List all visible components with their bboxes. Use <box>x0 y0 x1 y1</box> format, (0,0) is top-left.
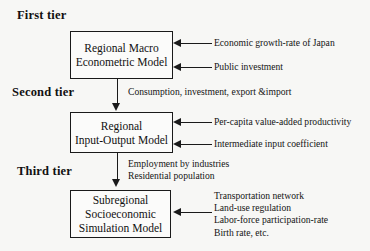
input-label-labor-force-participation-rate: Labor-force participation-rate <box>214 214 328 226</box>
arrow-left-icon <box>173 208 181 216</box>
flow-label-employment-residential-population: Employment by industries Residential pop… <box>128 158 229 182</box>
flow-label-consumption-investment-export-import: Consumption, investment, export &import <box>128 86 291 98</box>
box-line: Socioeconomic <box>85 207 156 221</box>
box-line: Simulation Model <box>79 221 162 235</box>
input-label-birth-rate-etc: Birth rate, etc. <box>214 227 328 239</box>
input-connector-line <box>181 122 212 123</box>
flow-label-line: Consumption, investment, export &import <box>128 86 291 98</box>
arrow-left-icon <box>173 118 181 126</box>
flow-label-line: Residential population <box>128 170 229 182</box>
input-label-public-investment: Public investment <box>214 61 283 73</box>
box-line: Subregional <box>93 193 149 207</box>
tier-label-second: Second tier <box>12 85 74 100</box>
model-box-subregional-socioeconomic-simulation: Subregional Socioeconomic Simulation Mod… <box>70 190 171 238</box>
input-label-economic-growth-rate: Economic growth-rate of Japan <box>214 37 335 49</box>
input-label-transportation-network: Transportation network <box>214 190 328 202</box>
input-connector-line <box>181 43 212 44</box>
tier-label-third: Third tier <box>17 164 72 179</box>
box-line: Regional <box>101 119 143 133</box>
input-label-intermediate-input-coefficient: Intermediate input coefficient <box>214 138 328 150</box>
input-connector-line <box>181 67 212 68</box>
input-label-per-capita-value-added-productivity: Per-capita value-added productivity <box>214 116 351 128</box>
arrow-left-icon <box>173 39 181 47</box>
flow-connector-line <box>117 153 118 181</box>
flow-connector-line <box>117 79 118 105</box>
box-line: Regional Macro <box>84 41 158 55</box>
arrow-down-icon <box>112 179 120 187</box>
model-box-regional-input-output: Regional Input-Output Model <box>70 112 173 153</box>
tier-label-first: First tier <box>17 8 67 23</box>
diagram-canvas: First tier Second tier Third tier Region… <box>0 0 370 251</box>
input-connector-line <box>181 144 212 145</box>
box-line: Input-Output Model <box>75 133 168 147</box>
arrow-down-icon <box>112 103 120 111</box>
box-line: Econometric Model <box>76 55 168 69</box>
input-connector-line <box>181 212 212 213</box>
arrow-left-icon <box>173 63 181 71</box>
input-label-group-tier3: Transportation network Land-use regulati… <box>214 190 328 239</box>
input-label-land-use-regulation: Land-use regulation <box>214 202 328 214</box>
flow-label-line: Employment by industries <box>128 158 229 170</box>
model-box-regional-macro-econometric: Regional Macro Econometric Model <box>70 31 173 79</box>
arrow-left-icon <box>173 140 181 148</box>
